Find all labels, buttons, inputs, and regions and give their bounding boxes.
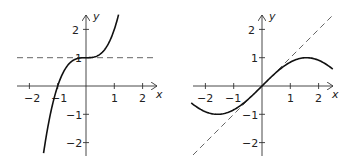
left-x-label: x <box>155 88 163 101</box>
right-x-label: x <box>331 88 339 101</box>
right-ytick-m2: −2 <box>242 137 258 150</box>
right-xtick-m2: −2 <box>197 92 213 105</box>
right-ytick-p2: 2 <box>248 24 255 37</box>
right-ytick-p1: 1 <box>251 52 258 65</box>
right-plot: −2 −1 1 2 2 1 −1 −2 x y <box>191 10 339 156</box>
left-xtick-p1: 1 <box>111 92 118 105</box>
right-ytick-m1: −1 <box>242 109 258 122</box>
left-y-label: y <box>92 10 100 23</box>
left-ytick-m1: −1 <box>66 109 82 122</box>
figure: −2 −1 1 2 2 1 −1 −2 x y −2 −1 1 2 2 <box>0 0 353 166</box>
left-ytick-p2: 2 <box>72 24 79 37</box>
right-xtick-p2: 2 <box>315 92 322 105</box>
left-plot: −2 −1 1 2 2 1 −1 −2 x y <box>17 10 163 156</box>
right-xtick-p1: 1 <box>287 92 294 105</box>
left-curve-cubic <box>44 15 119 154</box>
right-xtick-m1: −1 <box>225 92 241 105</box>
left-xtick-m2: −2 <box>24 92 40 105</box>
right-y-label: y <box>268 10 276 23</box>
left-xtick-p2: 2 <box>139 92 146 105</box>
left-ytick-m2: −2 <box>66 137 82 150</box>
